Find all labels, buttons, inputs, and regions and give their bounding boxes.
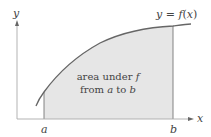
region-label-line2: from a to b [80, 84, 136, 95]
y-axis-arrow-icon [15, 20, 19, 26]
region-label-line2-to: to [113, 84, 129, 95]
region-label-line1-text: area under [77, 71, 136, 82]
bound-b-label: b [170, 123, 177, 136]
x-axis-label: x [197, 112, 204, 125]
curve-label: y = f(x) [155, 8, 197, 21]
bound-a-label: a [41, 123, 48, 136]
y-axis-label: y [12, 7, 20, 20]
curve-label-eq: = [162, 8, 178, 21]
region-label-line2-from: from [80, 84, 107, 95]
area-under-curve-diagram: y x a b y = f(x) area under f from a to … [0, 0, 211, 137]
region-label-line1: area under f [77, 71, 142, 82]
x-axis-arrow-icon [188, 117, 194, 121]
curve-label-close: ) [193, 8, 197, 21]
region-label-line2-b: b [130, 84, 136, 95]
